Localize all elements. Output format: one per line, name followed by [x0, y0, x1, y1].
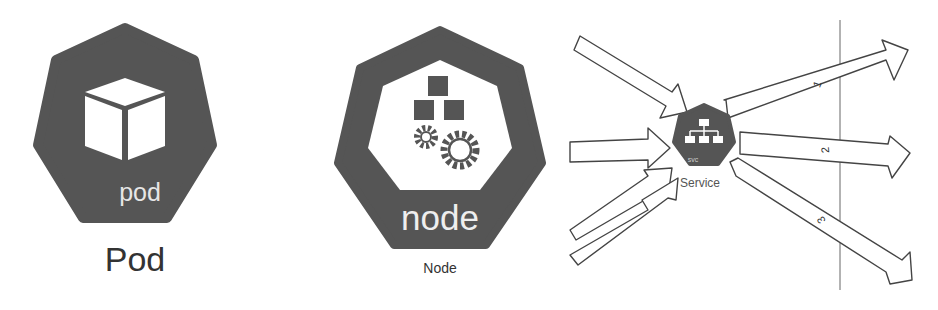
- outgoing-arrow-1: [724, 40, 908, 118]
- incoming-arrow: [570, 128, 670, 168]
- service-inner-label: svc: [673, 156, 713, 163]
- incoming-arrow: [574, 36, 687, 118]
- pod-panel: pod Pod: [0, 0, 300, 310]
- node-caption: Node: [380, 260, 500, 276]
- route-label-2: 2: [819, 146, 831, 153]
- outgoing-arrow-2: [740, 132, 910, 178]
- node-inner-label: node: [385, 198, 495, 238]
- pod-inner-label: pod: [90, 178, 190, 207]
- pod-caption: Pod: [60, 240, 210, 279]
- service-panel: svc Service 1 2 3: [560, 0, 938, 310]
- node-panel: node Node: [320, 0, 560, 310]
- service-caption: Service: [660, 176, 740, 190]
- service-diagram: [560, 0, 938, 310]
